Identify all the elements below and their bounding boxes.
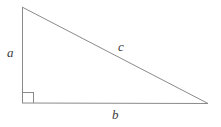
horizontal-leg-line	[22, 103, 208, 104]
label-side-c: c	[118, 40, 124, 53]
right-triangle-figure: a c b	[0, 0, 221, 127]
label-side-b: b	[112, 108, 119, 121]
label-side-a: a	[7, 46, 14, 59]
hypotenuse-line	[22, 7, 208, 104]
triangle-drawing	[0, 0, 221, 127]
right-angle-marker	[22, 92, 33, 103]
